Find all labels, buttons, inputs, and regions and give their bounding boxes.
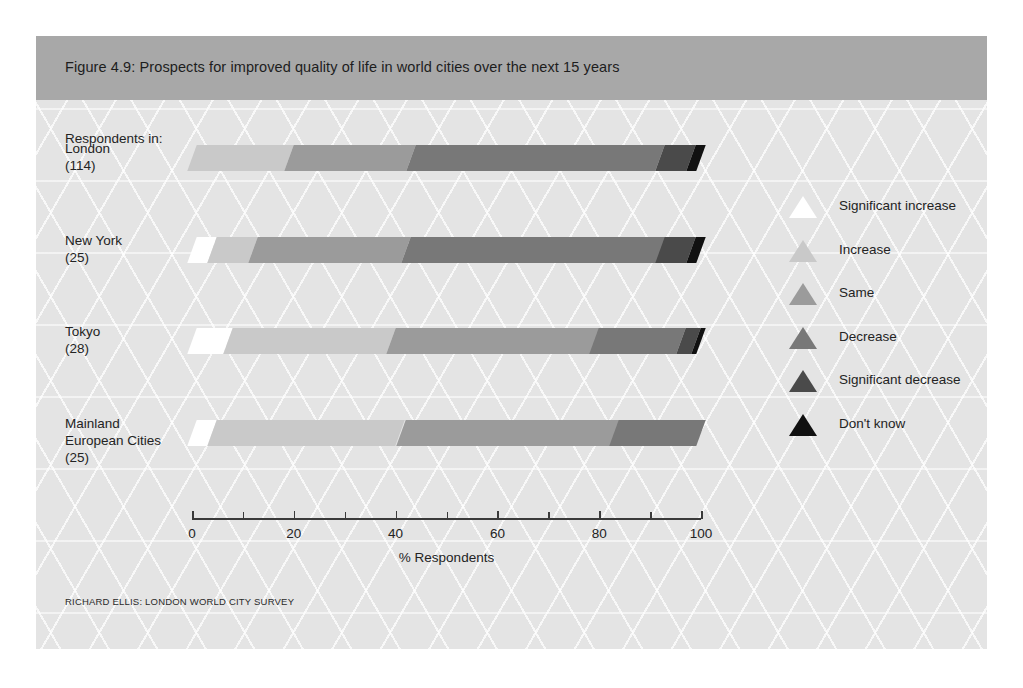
axis-tick-minor <box>447 512 449 519</box>
legend-item[interactable]: Significant increase <box>777 194 987 220</box>
legend-item[interactable]: Significant decrease <box>777 368 987 394</box>
axis-tick-label: 80 <box>592 526 607 541</box>
bar-segment <box>208 420 406 446</box>
legend-item[interactable]: Don't know <box>777 412 987 438</box>
axis-tick-label: 40 <box>388 526 403 541</box>
axis-tick-major <box>192 511 194 519</box>
source-note: RICHARD ELLIS: LONDON WORLD CITY SURVEY <box>65 596 294 607</box>
axis-tick-major <box>396 511 398 519</box>
axis-tick-label: 100 <box>690 526 713 541</box>
bar-row <box>36 145 987 171</box>
legend-triangle-icon <box>789 196 817 218</box>
legend-triangle-icon <box>789 240 817 262</box>
legend-item[interactable]: Same <box>777 281 987 307</box>
bar-segment <box>401 237 665 263</box>
legend-triangle-icon <box>789 370 817 392</box>
bar-segment <box>589 328 685 354</box>
legend-label: Significant decrease <box>839 372 961 387</box>
axis-tick-major <box>294 511 296 519</box>
bar-segment <box>187 145 293 171</box>
legend-triangle-icon <box>789 327 817 349</box>
legend-triangle-icon <box>789 283 817 305</box>
bar-segment <box>223 328 395 354</box>
axis-tick-minor <box>345 512 347 519</box>
axis-tick-label: 0 <box>188 526 196 541</box>
legend-label: Don't know <box>839 416 905 431</box>
bar-segment <box>386 328 599 354</box>
axis-tick-major <box>497 511 499 519</box>
axis-tick-major <box>599 511 601 519</box>
axis-tick-minor <box>548 512 550 519</box>
bar-segment <box>396 420 619 446</box>
figure-title: Figure 4.9: Prospects for improved quali… <box>65 59 620 75</box>
axis-tick-minor <box>650 512 652 519</box>
legend-item[interactable]: Increase <box>777 238 987 264</box>
bar-segment <box>248 237 410 263</box>
axis-tick-label: 60 <box>490 526 505 541</box>
axis-tick-major <box>701 511 703 519</box>
plot-area: Respondents in: London(114)New York(25)T… <box>36 100 987 649</box>
bar-segment <box>284 145 416 171</box>
axis-tick-label: 20 <box>286 526 301 541</box>
figure-plate: Figure 4.9: Prospects for improved quali… <box>36 36 987 649</box>
bar-segment <box>610 420 706 446</box>
axis-tick-minor <box>243 512 245 519</box>
legend-label: Increase <box>839 242 891 257</box>
legend-item[interactable]: Decrease <box>777 325 987 351</box>
axis-title: % Respondents <box>399 550 494 565</box>
legend-triangle-icon <box>789 414 817 436</box>
legend-label: Decrease <box>839 329 897 344</box>
legend-label: Same <box>839 285 874 300</box>
figure-root: Figure 4.9: Prospects for improved quali… <box>0 0 1023 688</box>
bar-segment <box>406 145 665 171</box>
legend-label: Significant increase <box>839 198 956 213</box>
title-band: Figure 4.9: Prospects for improved quali… <box>36 36 987 100</box>
